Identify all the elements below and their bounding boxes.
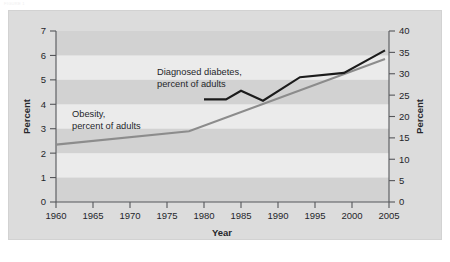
y-tick-label: 7 xyxy=(41,25,46,36)
x-tick-label: 1995 xyxy=(304,210,325,221)
y-axis-ticks-left xyxy=(50,31,56,202)
y-tick-label: 3 xyxy=(41,123,46,134)
y-axis-title-right: Percent xyxy=(414,98,425,134)
chart-svg-wrapper: 0 1 2 3 4 5 6 7 xyxy=(0,0,450,262)
y-tick-label: 2 xyxy=(41,148,46,159)
y2-tick-label: 25 xyxy=(399,90,410,101)
y-tick-label: 6 xyxy=(41,50,46,61)
y-tick-label: 0 xyxy=(41,196,46,207)
x-tick-label: 1965 xyxy=(82,210,103,221)
annotation-line: Diagnosed diabetes, xyxy=(157,67,242,77)
x-axis-ticks xyxy=(56,202,389,208)
x-tick-label: 1960 xyxy=(45,210,66,221)
x-tick-label: 1980 xyxy=(193,210,214,221)
y2-tick-label: 20 xyxy=(399,111,410,122)
y2-tick-label: 10 xyxy=(399,154,410,165)
y2-tick-label: 5 xyxy=(399,175,404,186)
y2-tick-label: 30 xyxy=(399,68,410,79)
y-axis-labels-right: 0 5 10 15 20 25 30 35 40 xyxy=(399,25,410,207)
y-tick-label: 4 xyxy=(41,99,46,110)
annotation-line: percent of adults xyxy=(72,121,141,131)
x-tick-label: 1975 xyxy=(156,210,177,221)
x-tick-label: 1970 xyxy=(119,210,140,221)
plot-background xyxy=(56,31,389,202)
x-tick-label: 1990 xyxy=(267,210,288,221)
x-tick-label: 2000 xyxy=(341,210,362,221)
x-axis-title: Year xyxy=(212,227,232,238)
annotation-line: percent of adults xyxy=(157,79,226,89)
x-axis-labels: 1960 1965 1970 1975 1980 1985 1990 1995 … xyxy=(45,210,399,221)
y-tick-label: 1 xyxy=(41,172,46,183)
y-tick-label: 5 xyxy=(41,74,46,85)
y2-tick-label: 0 xyxy=(399,196,404,207)
figure-container: FIGURE 1 xyxy=(0,0,450,262)
x-tick-label: 1985 xyxy=(230,210,251,221)
y-axis-labels-left: 0 1 2 3 4 5 6 7 xyxy=(41,25,46,207)
line-chart: 0 1 2 3 4 5 6 7 xyxy=(0,0,450,262)
y-axis-ticks-right xyxy=(389,31,395,202)
y2-tick-label: 40 xyxy=(399,25,410,36)
y-axis-title-left: Percent xyxy=(21,98,32,134)
y2-tick-label: 35 xyxy=(399,47,410,58)
annotation-line: Obesity, xyxy=(72,109,105,119)
y2-tick-label: 15 xyxy=(399,132,410,143)
x-tick-label: 2005 xyxy=(378,210,399,221)
